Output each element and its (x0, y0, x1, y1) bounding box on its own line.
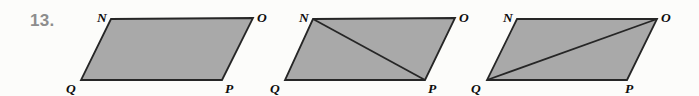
parallelogram-1-shape (81, 18, 253, 80)
parallelogram-group-3: N O P Q (471, 10, 671, 96)
worksheet-problem-figure: 13. N O P Q N O P Q N O P Q (0, 0, 699, 96)
vertex-label-2-n: N (298, 10, 310, 25)
vertex-label-2-q: Q (270, 81, 280, 96)
vertex-label-1-p: P (225, 81, 234, 96)
parallelogram-2-shape (285, 18, 455, 80)
vertex-label-1-o: O (257, 10, 267, 25)
geometry-diagram-svg: N O P Q N O P Q N O P Q (0, 0, 699, 96)
parallelogram-group-2: N O P Q (270, 10, 469, 96)
vertex-label-1-n: N (96, 10, 108, 25)
vertex-label-3-o: O (661, 10, 671, 25)
vertex-label-2-p: P (428, 81, 437, 96)
vertex-label-1-q: Q (66, 81, 76, 96)
vertex-label-3-p: P (625, 81, 634, 96)
vertex-label-3-q: Q (471, 81, 481, 96)
vertex-label-3-n: N (502, 10, 514, 25)
vertex-label-2-o: O (459, 10, 469, 25)
parallelogram-group-1: N O P Q (66, 10, 267, 96)
